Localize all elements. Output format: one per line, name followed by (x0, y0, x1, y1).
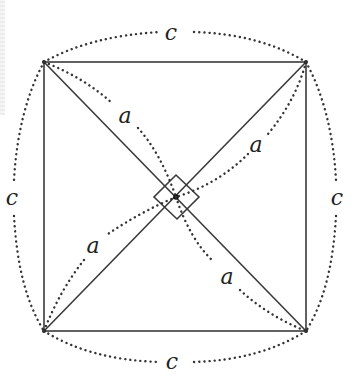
label-half-diag-bottom-left: a (86, 233, 99, 258)
label-half-diag-top-left: a (118, 103, 131, 128)
square-diagonals-diagram: c c c c a a a a (0, 0, 361, 389)
label-side-left: c (6, 185, 18, 210)
label-half-diag-top-right: a (249, 132, 262, 157)
label-side-bottom: c (166, 349, 178, 374)
label-half-diag-bottom-right: a (220, 264, 233, 289)
arc-side-left (14, 62, 44, 331)
label-side-top: c (165, 20, 177, 45)
label-side-right: c (331, 185, 343, 210)
